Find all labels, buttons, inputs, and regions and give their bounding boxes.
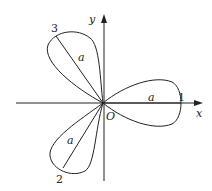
petal-3 <box>47 32 103 103</box>
x-axis-label: x <box>196 107 203 120</box>
rose-diagram: 1 2 3 a a a x y O <box>0 0 212 191</box>
origin-label: O <box>106 110 115 123</box>
y-arrow-icon <box>101 14 107 23</box>
petal-1-label: 1 <box>178 91 185 104</box>
petal-3-label: 3 <box>51 22 58 35</box>
petal-3-length-label: a <box>78 51 85 64</box>
petal-2 <box>50 103 103 174</box>
petal-2-length-label: a <box>67 134 74 147</box>
petal-1-length-label: a <box>148 91 155 104</box>
petal-3-radius <box>56 36 103 103</box>
x-arrow-icon <box>194 100 203 106</box>
y-axis-label: y <box>88 13 96 26</box>
petal-2-label: 2 <box>56 173 63 186</box>
